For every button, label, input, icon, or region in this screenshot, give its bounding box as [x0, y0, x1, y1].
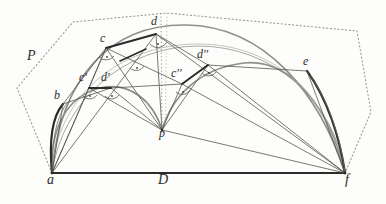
angle-mark-d [150, 43, 166, 48]
label-p: p [159, 127, 165, 139]
label-a: a [47, 173, 54, 187]
label-d-dprime: d'' [197, 48, 208, 60]
chord-f-d [156, 34, 345, 173]
inner-faint-arc-a-f [52, 44, 345, 173]
label-c: c [100, 32, 105, 44]
label-P: P [27, 49, 36, 63]
label-e: e [303, 55, 308, 67]
label-f: f [345, 173, 349, 187]
angle-mark-mid [130, 66, 144, 70]
chord-dq-cqq [111, 84, 182, 88]
figure-canvas [0, 0, 386, 204]
vertical-d-p-companion [165, 13, 167, 128]
label-D: D [158, 173, 168, 187]
chord-mid-thick [120, 49, 146, 61]
chord-b-dq [63, 88, 111, 104]
label-c-dprime: c'' [171, 67, 181, 79]
label-d: d [151, 15, 157, 27]
chord-f-cqq [182, 84, 345, 173]
label-d-prime: d' [101, 71, 110, 83]
label-c-prime: c' [79, 71, 87, 83]
label-b: b [54, 89, 60, 101]
chord-p-dqq [162, 65, 208, 130]
geometry-figure: P a b c d c' d' c'' d'' e f p D [0, 0, 386, 204]
